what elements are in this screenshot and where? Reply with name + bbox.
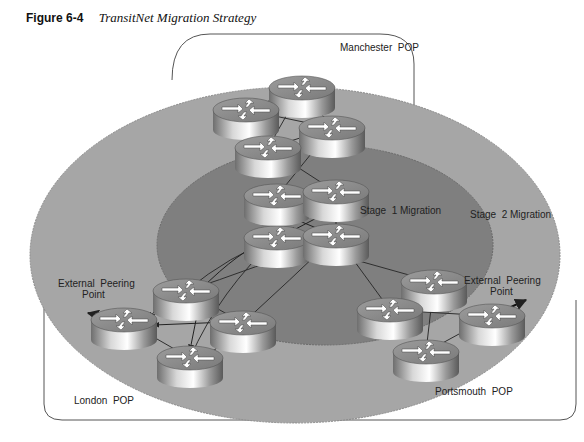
router-icon <box>299 116 365 158</box>
router-icon <box>213 98 279 140</box>
router-icon <box>393 340 459 382</box>
router-icon <box>235 136 301 178</box>
router-icon <box>244 184 310 226</box>
network-diagram: Manchester POP Stage 1 Migration Stage 2… <box>0 0 584 442</box>
router-icon <box>210 311 276 353</box>
london-pop-label: London POP <box>74 395 134 406</box>
right-peering-label-1: External Peering <box>464 275 541 286</box>
router-icon <box>357 298 423 340</box>
stage2-label: Stage 2 Migration <box>470 209 551 220</box>
router-icon <box>91 308 157 350</box>
left-peering-label-2: Point <box>82 289 105 300</box>
portsmouth-pop-label: Portsmouth POP <box>435 386 513 397</box>
stage1-label: Stage 1 Migration <box>360 205 441 216</box>
right-peering-label-2: Point <box>490 286 513 297</box>
left-peering-label-1: External Peering <box>58 278 135 289</box>
router-icon <box>153 279 219 321</box>
manchester-pop-label: Manchester POP <box>340 42 419 53</box>
router-icon <box>157 346 223 388</box>
router-icon <box>459 304 525 346</box>
router-icon <box>303 224 369 266</box>
router-icon <box>244 226 310 268</box>
